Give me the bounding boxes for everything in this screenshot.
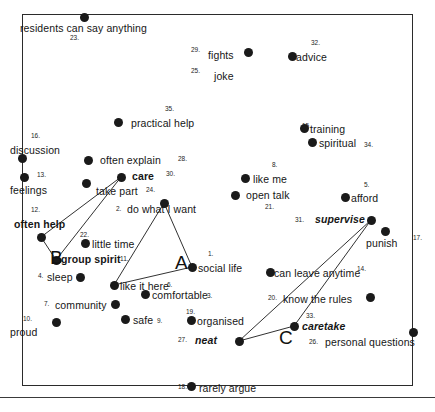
point-number-23: 23.	[70, 35, 79, 42]
data-point-17	[381, 227, 390, 236]
data-point-30	[117, 173, 126, 182]
point-number-25: 25.	[191, 68, 200, 75]
point-number-12: 12.	[31, 207, 40, 214]
data-point-22	[81, 239, 90, 248]
point-number-8: 8.	[272, 162, 277, 169]
point-label-2: do what I want	[127, 204, 196, 215]
point-label-8: like me	[253, 174, 287, 185]
point-label-7: community	[55, 300, 107, 311]
data-point-7	[111, 300, 120, 309]
point-number-21: 21.	[265, 204, 274, 211]
data-point-34	[308, 138, 317, 147]
point-number-1: 1.	[208, 251, 213, 258]
point-number-6: 6.	[167, 282, 172, 289]
data-point-29	[244, 48, 253, 57]
point-number-22: 22.	[80, 232, 89, 239]
baseline-rule	[0, 397, 435, 398]
point-number-30: 30.	[166, 171, 175, 178]
point-label-35: practical help	[131, 118, 194, 129]
data-point-13	[20, 173, 29, 182]
point-label-34: spiritual	[319, 138, 356, 149]
cluster-label-a: A	[175, 253, 188, 272]
data-point-35	[114, 118, 123, 127]
point-label-29: fights	[208, 50, 234, 61]
point-number-3: 3.	[207, 293, 212, 300]
point-label-16: discussion	[10, 145, 60, 156]
point-label-13: feelings	[10, 185, 47, 196]
point-number-7: 7.	[44, 301, 49, 308]
point-label-33: caretake	[302, 321, 345, 332]
point-number-5: 5.	[364, 182, 369, 189]
point-label-25: joke	[214, 71, 234, 82]
point-label-3: comfortable	[152, 290, 208, 301]
data-point-21	[231, 191, 240, 200]
point-number-14: 14.	[357, 266, 366, 273]
point-number-29: 29.	[191, 47, 200, 54]
data-point-19	[187, 316, 196, 325]
point-label-19: organised	[197, 316, 244, 327]
data-point-10	[52, 318, 61, 327]
point-label-10: proud	[10, 327, 37, 338]
point-number-20: 20.	[268, 295, 277, 302]
data-point-24	[82, 179, 91, 188]
data-point-27	[235, 337, 244, 346]
point-label-22: little time	[92, 239, 135, 250]
point-number-17: 17.	[413, 235, 422, 242]
point-label-26: personal questions	[325, 337, 415, 348]
point-label-20: know the rules	[283, 294, 352, 305]
point-number-9: 9.	[157, 318, 162, 325]
point-label-28: often explain	[100, 155, 161, 166]
point-number-32: 32.	[311, 40, 320, 47]
data-point-12	[37, 233, 46, 242]
point-label-11: group spirit	[61, 254, 121, 265]
point-label-21: open talk	[246, 190, 290, 201]
scatter-plot-figure: residents can say anything23.fights29.jo…	[0, 0, 435, 412]
point-number-28: 28.	[178, 156, 187, 163]
data-point-9	[121, 315, 130, 324]
point-number-34: 34.	[364, 142, 373, 149]
point-label-18: rarely argue	[199, 383, 256, 394]
data-point-18	[187, 382, 196, 391]
cluster-label-b: B	[50, 248, 63, 267]
point-label-5: afford	[351, 193, 378, 204]
point-number-18: 18.	[178, 384, 187, 391]
point-label-14: can leave anytime	[274, 268, 360, 279]
data-point-20	[366, 293, 375, 302]
point-number-13: 13.	[37, 172, 46, 179]
point-label-32: advice	[296, 52, 327, 63]
data-point-1	[188, 263, 197, 272]
point-number-15: 15.	[302, 123, 311, 130]
point-number-4: 4.	[38, 273, 43, 280]
point-number-10: 10.	[23, 316, 32, 323]
data-point-6	[110, 281, 119, 290]
point-number-31: 31.	[295, 217, 304, 224]
point-label-30: care	[132, 171, 154, 182]
point-label-12: often help	[14, 219, 65, 230]
point-label-31: supervise	[315, 214, 365, 225]
point-label-27: neat	[195, 335, 217, 346]
data-point-28	[84, 156, 93, 165]
point-label-9: safe	[133, 315, 153, 326]
data-point-8	[241, 174, 250, 183]
point-number-26: 26.	[309, 339, 318, 346]
point-number-35: 35.	[165, 106, 174, 113]
point-number-24: 24.	[146, 187, 155, 194]
data-point-31	[367, 216, 376, 225]
point-label-15: training	[310, 124, 345, 135]
cluster-label-c: C	[279, 328, 293, 347]
data-point-5	[341, 193, 350, 202]
point-number-33: 33.	[306, 313, 315, 320]
point-number-19: 19.	[186, 309, 195, 316]
point-number-16: 16.	[31, 133, 40, 140]
point-number-2: 2.	[116, 206, 121, 213]
point-label-17: punish	[366, 238, 398, 249]
point-label-23: residents can say anything	[20, 23, 147, 34]
data-point-4	[76, 273, 85, 282]
point-number-11: 11.	[120, 256, 129, 263]
point-label-24: take part	[96, 186, 138, 197]
data-point-3	[141, 290, 150, 299]
point-label-1: social life	[198, 263, 242, 274]
point-number-27: 27.	[178, 337, 187, 344]
point-label-4: sleep	[47, 272, 73, 283]
data-point-23	[80, 13, 89, 22]
